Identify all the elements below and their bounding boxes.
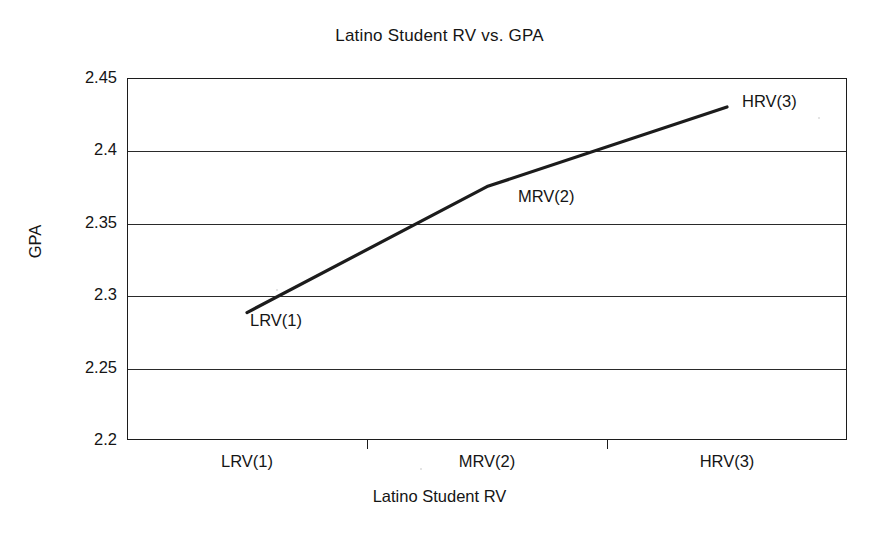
point-label-lrv: LRV(1) [250, 311, 302, 330]
chart-figure: Latino Student RV vs. GPA GPA 2.45 2.4 2… [0, 0, 879, 536]
y-tick-label-2-30: 2.3 [55, 285, 117, 304]
chart-title: Latino Student RV vs. GPA [0, 26, 879, 46]
gridline-2-25 [128, 369, 846, 370]
point-label-mrv: MRV(2) [518, 187, 575, 206]
gridline-2-35 [128, 224, 846, 225]
gridline-2-30 [128, 296, 846, 297]
point-label-hrv: HRV(3) [742, 92, 797, 111]
y-tick-label-2-35: 2.35 [55, 213, 117, 232]
y-tick-label-2-45: 2.45 [55, 68, 117, 87]
y-tick-label-2-20: 2.2 [55, 430, 117, 449]
y-tick-label-2-25: 2.25 [55, 358, 117, 377]
y-axis-title: GPA [26, 202, 45, 282]
scan-speckle [818, 117, 820, 119]
scan-speckle [420, 468, 422, 470]
x-tick-label-lrv: LRV(1) [147, 452, 347, 471]
y-tick-label-2-40: 2.4 [55, 140, 117, 159]
x-tick-label-mrv: MRV(2) [387, 452, 587, 471]
scan-speckle [276, 289, 278, 291]
gridline-2-40 [128, 151, 846, 152]
x-tick-label-hrv: HRV(3) [627, 452, 827, 471]
x-tick-1 [367, 440, 368, 449]
x-tick-2 [607, 440, 608, 449]
plot-area [127, 78, 847, 440]
x-axis-title: Latino Student RV [0, 487, 879, 506]
